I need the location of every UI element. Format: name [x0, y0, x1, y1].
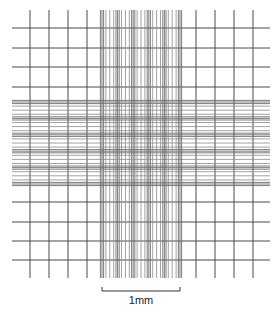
scale-bar-label: 1mm: [101, 294, 181, 306]
hemocytometer-grid: [0, 0, 280, 315]
